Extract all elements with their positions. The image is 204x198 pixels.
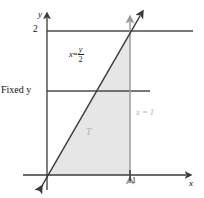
y-axis-label: y	[38, 10, 42, 19]
figure-canvas	[0, 0, 204, 198]
y-tick-label-2: 2	[33, 25, 38, 35]
label-x-equals-1: x = 1	[136, 108, 154, 117]
fraction-numerator: y	[78, 46, 84, 54]
fraction-denominator: 2	[78, 56, 84, 64]
equation-fraction: y 2	[78, 46, 84, 64]
x-axis-label: x	[189, 179, 193, 188]
math-region-figure: y 2 Fixed y x= y 2 x = 1 T 1 x	[0, 0, 204, 198]
fixed-y-label: Fixed y	[1, 85, 31, 95]
region-T-label: T	[86, 128, 91, 138]
x-tick-label-1: 1	[132, 177, 136, 185]
equation-x-equals-y-over-2: x= y 2	[69, 46, 84, 64]
region-T-fill	[47, 31, 130, 175]
